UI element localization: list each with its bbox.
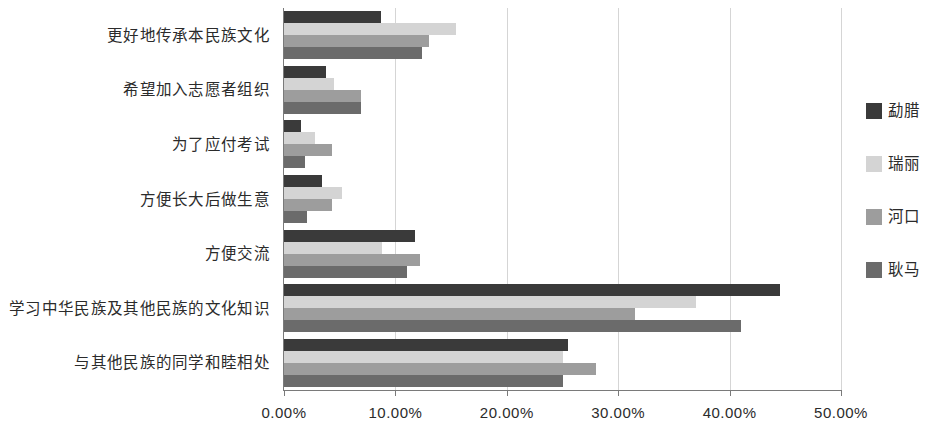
x-axis-tick-mark bbox=[841, 390, 842, 396]
x-axis-tick-label: 30.00% bbox=[563, 404, 673, 421]
bar bbox=[284, 254, 420, 266]
bar bbox=[284, 363, 596, 375]
category-label: 与其他民族的同学和睦相处 bbox=[8, 353, 270, 372]
bar bbox=[284, 266, 407, 278]
value-axis-baseline bbox=[284, 390, 841, 391]
x-axis-tick-label: 50.00% bbox=[786, 404, 896, 421]
gridline bbox=[730, 8, 731, 390]
x-axis-tick-mark bbox=[284, 390, 285, 396]
category-label: 方便长大后做生意 bbox=[8, 190, 270, 209]
gridline bbox=[507, 8, 508, 390]
category-label: 希望加入志愿者组织 bbox=[8, 80, 270, 99]
bar bbox=[284, 199, 332, 211]
bar bbox=[284, 90, 361, 102]
bar bbox=[284, 156, 305, 168]
bar bbox=[284, 102, 361, 114]
bar bbox=[284, 66, 326, 78]
legend-label: 河口 bbox=[888, 206, 921, 227]
bar bbox=[284, 339, 568, 351]
category-axis: 更好地传承本民族文化希望加入志愿者组织为了应付考试方便长大后做生意方便交流学习中… bbox=[0, 8, 278, 390]
category-label: 方便交流 bbox=[8, 244, 270, 263]
bar bbox=[284, 175, 322, 187]
bar bbox=[284, 351, 563, 363]
x-axis-tick-mark bbox=[730, 390, 731, 396]
bar bbox=[284, 187, 342, 199]
bar bbox=[284, 296, 696, 308]
x-axis-tick-label: 40.00% bbox=[675, 404, 785, 421]
bar bbox=[284, 23, 456, 35]
chart-legend: 勐腊瑞丽河口耿马 bbox=[862, 100, 939, 290]
bar bbox=[284, 78, 334, 90]
category-label: 为了应付考试 bbox=[8, 135, 270, 154]
bar bbox=[284, 230, 415, 242]
legend-swatch-icon bbox=[866, 156, 882, 172]
bar bbox=[284, 375, 563, 387]
x-axis-tick-label: 10.00% bbox=[340, 404, 450, 421]
plot-area bbox=[284, 8, 841, 390]
legend-entry[interactable]: 瑞丽 bbox=[862, 153, 939, 175]
bar bbox=[284, 308, 635, 320]
category-label: 更好地传承本民族文化 bbox=[8, 26, 270, 45]
x-axis-tick-label: 20.00% bbox=[452, 404, 562, 421]
bar bbox=[284, 284, 780, 296]
legend-swatch-icon bbox=[866, 262, 882, 278]
legend-swatch-icon bbox=[866, 103, 882, 119]
bar bbox=[284, 120, 301, 132]
gridline bbox=[841, 8, 842, 390]
legend-label: 瑞丽 bbox=[888, 153, 921, 174]
gridline bbox=[618, 8, 619, 390]
legend-entry[interactable]: 河口 bbox=[862, 206, 939, 228]
bar bbox=[284, 242, 382, 254]
bar bbox=[284, 144, 332, 156]
legend-entry[interactable]: 耿马 bbox=[862, 259, 939, 281]
bar bbox=[284, 11, 381, 23]
x-axis-tick-mark bbox=[618, 390, 619, 396]
value-axis-line bbox=[283, 8, 284, 391]
category-label: 学习中华民族及其他民族的文化知识 bbox=[8, 299, 270, 318]
bar bbox=[284, 35, 429, 47]
bar bbox=[284, 47, 422, 59]
legend-label: 耿马 bbox=[888, 259, 921, 280]
x-axis-tick-mark bbox=[507, 390, 508, 396]
bar-chart: 更好地传承本民族文化希望加入志愿者组织为了应付考试方便长大后做生意方便交流学习中… bbox=[0, 0, 939, 433]
bar bbox=[284, 211, 307, 223]
gridline bbox=[395, 8, 396, 390]
legend-entry[interactable]: 勐腊 bbox=[862, 100, 939, 122]
x-axis-tick-label: 0.00% bbox=[229, 404, 339, 421]
legend-label: 勐腊 bbox=[888, 100, 921, 121]
bar bbox=[284, 132, 315, 144]
legend-swatch-icon bbox=[866, 209, 882, 225]
x-axis-tick-mark bbox=[395, 390, 396, 396]
bar bbox=[284, 320, 741, 332]
